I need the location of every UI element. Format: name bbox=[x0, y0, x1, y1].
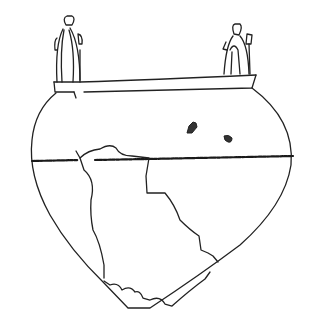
surface-marks bbox=[187, 122, 232, 142]
body-outline bbox=[31, 88, 291, 308]
fracture-outline bbox=[76, 146, 218, 306]
vessel-drawing bbox=[0, 0, 312, 331]
rim bbox=[54, 75, 256, 98]
right-handle-figure bbox=[223, 24, 252, 74]
left-handle-figure bbox=[55, 16, 82, 82]
vessel-svg bbox=[0, 0, 312, 331]
carination-line bbox=[32, 156, 293, 161]
